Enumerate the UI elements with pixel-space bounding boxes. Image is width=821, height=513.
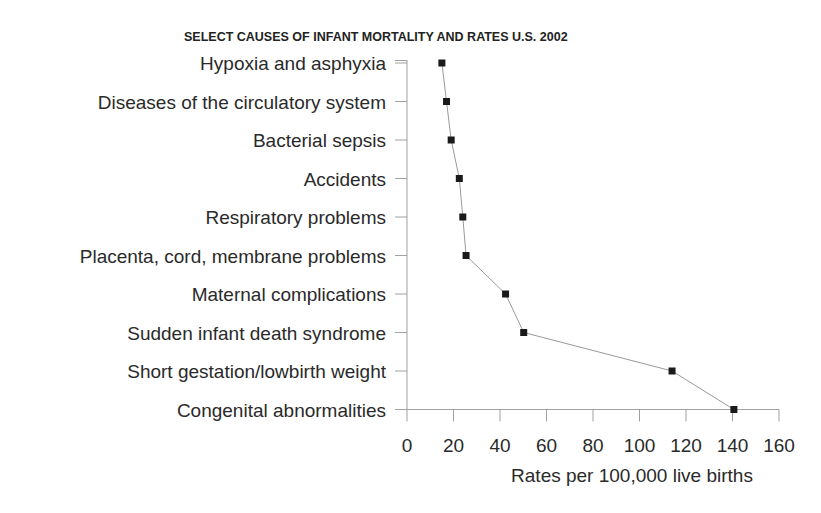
data-point-marker xyxy=(438,60,445,67)
data-point-marker xyxy=(520,329,527,336)
y-category-label: Diseases of the circulatory system xyxy=(98,92,386,113)
data-point-marker xyxy=(730,406,737,413)
x-tick-label: 100 xyxy=(624,435,656,456)
x-tick-label: 40 xyxy=(489,435,510,456)
data-point-marker xyxy=(463,252,470,259)
x-tick-label: 0 xyxy=(402,435,413,456)
x-tick-label: 60 xyxy=(536,435,557,456)
y-category-label: Placenta, cord, membrane problems xyxy=(80,246,386,267)
y-category-label: Maternal complications xyxy=(192,284,386,305)
x-tick-label: 120 xyxy=(670,435,702,456)
data-point-marker xyxy=(448,137,455,144)
y-category-label: Sudden infant death syndrome xyxy=(127,323,386,344)
x-axis-title: Rates per 100,000 live births xyxy=(511,465,753,486)
x-tick-label: 80 xyxy=(582,435,603,456)
data-point-marker xyxy=(456,175,463,182)
data-point-marker xyxy=(669,368,676,375)
y-category-label: Bacterial sepsis xyxy=(253,130,386,151)
y-category-label: Short gestation/lowbirth weight xyxy=(127,361,386,382)
y-category-label: Accidents xyxy=(304,169,386,190)
y-axis: Hypoxia and asphyxiaDiseases of the circ… xyxy=(80,53,407,421)
x-tick-label: 20 xyxy=(443,435,464,456)
data-point-marker xyxy=(502,291,509,298)
x-axis: 020406080100120140160 xyxy=(402,410,795,456)
x-tick-label: 160 xyxy=(763,435,795,456)
data-point-marker xyxy=(459,214,466,221)
y-category-label: Hypoxia and asphyxia xyxy=(200,53,386,74)
data-series xyxy=(438,60,737,414)
x-tick-label: 140 xyxy=(717,435,749,456)
series-line xyxy=(442,63,734,410)
chart-plot: Hypoxia and asphyxiaDiseases of the circ… xyxy=(0,0,821,513)
y-category-label: Congenital abnormalities xyxy=(177,400,386,421)
y-category-label: Respiratory problems xyxy=(205,207,386,228)
data-point-marker xyxy=(443,98,450,105)
